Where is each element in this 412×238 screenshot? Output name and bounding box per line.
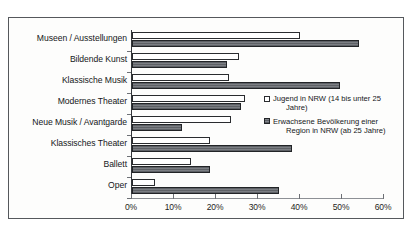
- bar-youth: [132, 179, 155, 186]
- bar-adult: [132, 40, 359, 47]
- category-label: Bildende Kunst: [70, 54, 127, 64]
- category-label: Klassische Musik: [62, 75, 127, 85]
- bar-row: Museen / Ausstellungen: [131, 30, 383, 51]
- category-label: Klassisches Theater: [51, 138, 127, 148]
- x-tick-label: 60%: [363, 202, 403, 212]
- bar-youth: [132, 74, 229, 81]
- bar-adult: [132, 103, 241, 110]
- x-tick-label: 40%: [279, 202, 319, 212]
- legend-label: Jugend in NRW (14 bis unter 25: [273, 94, 381, 103]
- bar-youth: [132, 137, 210, 144]
- x-tick-label: 20%: [195, 202, 235, 212]
- legend-entry: Jugend in NRW (14 bis unter 25Jahre): [264, 94, 405, 113]
- legend-label: Erwachsene Bevölkerung einer: [273, 117, 378, 126]
- category-tick: [127, 198, 131, 199]
- x-tick-label: 0%: [111, 202, 151, 212]
- category-label: Ballett: [103, 159, 127, 169]
- bar-youth: [132, 53, 239, 60]
- category-label: Oper: [108, 180, 127, 190]
- legend-entry: Erwachsene Bevölkerung einerRegion in NR…: [264, 117, 405, 136]
- x-tick: [383, 194, 384, 199]
- bar-adult: [132, 145, 292, 152]
- category-label: Neue Musik / Avantgarde: [32, 117, 127, 127]
- bar-row: Oper: [131, 177, 383, 198]
- x-tick-label: 10%: [153, 202, 193, 212]
- x-tick-label: 50%: [321, 202, 361, 212]
- bar-youth: [132, 158, 191, 165]
- category-label: Modernes Theater: [58, 96, 127, 106]
- legend-swatch-youth: [264, 96, 270, 102]
- bar-adult: [132, 187, 279, 194]
- bar-adult: [132, 166, 210, 173]
- chart-frame: 0%10%20%30%40%50%60% Museen / Ausstellun…: [8, 17, 404, 219]
- legend-label-cont: Region in NRW (ab 25 Jahre): [273, 126, 405, 135]
- bar-youth: [132, 95, 245, 102]
- legend-swatch-adult: [264, 118, 270, 124]
- x-tick-label: 30%: [237, 202, 277, 212]
- bar-youth: [132, 32, 300, 39]
- chart-legend: Jugend in NRW (14 bis unter 25Jahre)Erwa…: [264, 94, 405, 140]
- category-label: Museen / Ausstellungen: [37, 33, 127, 43]
- legend-label-cont: Jahre): [273, 103, 405, 112]
- bar-row: Ballett: [131, 156, 383, 177]
- bar-adult: [132, 124, 182, 131]
- bar-row: Bildende Kunst: [131, 51, 383, 72]
- bar-adult: [132, 82, 340, 89]
- bar-youth: [132, 116, 231, 123]
- bar-row: Klassische Musik: [131, 72, 383, 93]
- bar-adult: [132, 61, 227, 68]
